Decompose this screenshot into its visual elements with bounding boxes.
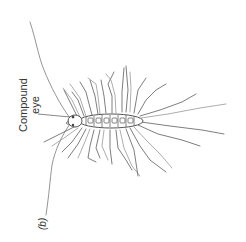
antenna-lower	[46, 124, 70, 215]
legs-upper	[63, 66, 226, 118]
centipede-body	[66, 114, 143, 128]
legs-lower	[44, 122, 224, 176]
panel-label: (b)	[38, 218, 49, 230]
compound-eye-label: Compound eye	[18, 78, 41, 132]
head	[68, 115, 82, 127]
label-compound: Compound	[18, 78, 30, 132]
centipede-figure: Compound eye (b)	[0, 0, 246, 242]
compound-eye	[72, 116, 75, 119]
label-eye: eye	[30, 78, 42, 132]
compound-eye-leader-line	[38, 114, 70, 117]
